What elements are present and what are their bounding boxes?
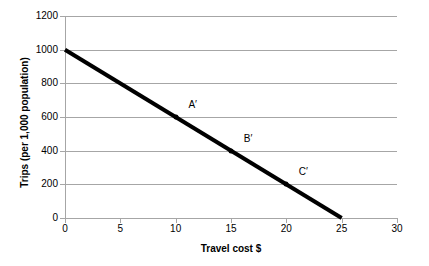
data-point-label: A′	[188, 100, 197, 110]
x-axis-title: Travel cost $	[65, 243, 397, 254]
demand-curve-line	[0, 0, 429, 266]
y-axis-title: Trips (per 1,000 population)	[19, 23, 30, 223]
data-point-marker	[229, 148, 234, 153]
data-point-marker	[173, 115, 178, 120]
data-point-label: B′	[244, 134, 253, 144]
data-point-label: C′	[299, 167, 308, 177]
data-point-marker	[284, 182, 289, 187]
series-polyline	[65, 50, 342, 218]
chart-container: 020040060080010001200 051015202530 A′B′C…	[0, 0, 429, 266]
